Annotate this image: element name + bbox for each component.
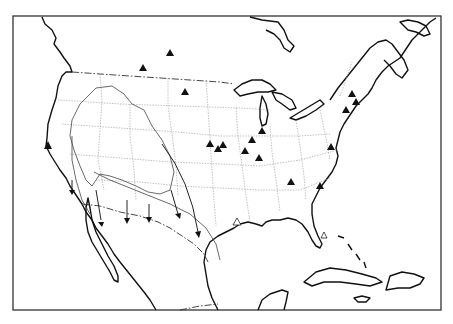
triangle-marker (342, 106, 350, 113)
yucatan-coastline (258, 290, 288, 310)
hispaniola-coastline (386, 272, 424, 290)
st-lawrence-coastline (330, 40, 408, 100)
triangle-marker (248, 136, 256, 143)
us-mexico-border (82, 204, 208, 262)
triangle-marker (241, 147, 249, 154)
state-borders (58, 62, 352, 226)
mexico-guatemala-border (180, 304, 218, 310)
triangle-marker (139, 64, 147, 71)
triangle-marker (206, 140, 214, 147)
bahamas-coastline (338, 236, 366, 268)
cuba-coastline (304, 268, 382, 286)
newfoundland-coastline (400, 20, 430, 36)
triangle-marker (348, 90, 356, 97)
triangle-marker (255, 154, 263, 161)
lake-michigan (260, 96, 268, 126)
triangle-marker (219, 141, 227, 148)
open-triangle-marker (321, 232, 327, 238)
triangle-marker (327, 143, 335, 150)
lake-superior (234, 80, 276, 96)
us-canada-border (72, 72, 234, 84)
jamaica-coastline (354, 296, 370, 302)
map-frame (13, 16, 441, 310)
lake-huron (272, 92, 296, 110)
western-region-outline (70, 86, 174, 194)
triangle-marker (166, 49, 174, 56)
triangle-marker (287, 178, 295, 185)
gulf-and-atlantic-coastline (204, 18, 436, 310)
hudson-bay-coastline (250, 17, 294, 52)
triangle-marker (181, 88, 189, 95)
north-america-map (0, 0, 453, 324)
open-triangle-marker (233, 218, 241, 225)
lake-erie-ontario (290, 100, 324, 120)
triangle-marker (258, 127, 266, 134)
map-figure (0, 0, 453, 324)
baja-california-coastline (86, 198, 118, 282)
triangle-marker (352, 98, 360, 105)
southwest-boundary-line (94, 172, 220, 260)
filled-triangle-markers (44, 49, 360, 189)
flow-arrows (69, 144, 201, 238)
triangle-marker (44, 141, 52, 149)
